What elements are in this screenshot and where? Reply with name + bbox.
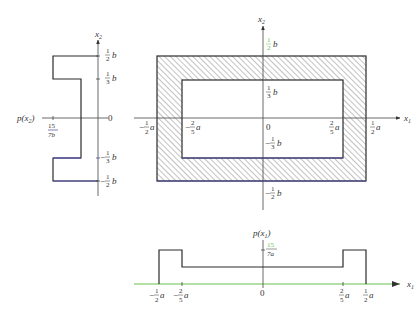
svg-text:2: 2 [271,193,275,201]
svg-text:2: 2 [155,296,159,304]
svg-text:3: 3 [271,143,275,151]
svg-text:a: a [150,122,155,132]
left-tick-neg-third-b: − 1 3 b [100,149,117,165]
svg-text:b: b [112,50,117,60]
svg-text:1: 1 [106,70,110,78]
main-x1-label: x1 [403,113,411,124]
left-density-label: p(x2) [16,113,35,124]
main-region-plot: x1 x2 0 − 1 2 a − 2 5 a 2 5 a 1 2 [134,14,411,210]
svg-text:a: a [184,290,189,300]
svg-text:2: 2 [371,128,375,136]
left-tick-third-b: 1 3 b [105,70,117,86]
bottom-density-label: p(x1) [252,228,271,239]
main-ytick-half-b: 1 2 b [266,36,278,52]
svg-text:−: − [100,176,105,186]
svg-text:a: a [376,122,381,132]
svg-text:1: 1 [106,149,110,157]
svg-text:b: b [277,138,282,148]
left-zero-label: 0 [108,113,113,123]
left-tick-neg-half-b: − 1 2 b [100,173,117,189]
svg-text:−: − [265,188,270,198]
left-density-value-den: 7b [48,131,56,139]
svg-text:5: 5 [179,296,183,304]
svg-text:−: − [149,290,154,300]
svg-text:5: 5 [340,296,344,304]
bottom-xtick-half-a: 1 2 a [363,287,374,304]
svg-text:b: b [112,152,117,162]
main-ytick-neg-half-b: − 1 2 b [265,185,282,201]
bottom-density-value-num: 15 [267,241,275,249]
svg-text:1: 1 [106,173,110,181]
diagram-canvas: x2 p(x2) 15 7b 0 1 2 b 1 3 b − 1 3 b [0,0,420,320]
svg-text:1: 1 [106,47,110,55]
svg-text:b: b [277,188,282,198]
svg-text:2: 2 [179,287,183,295]
svg-text:b: b [112,176,117,186]
svg-text:1: 1 [371,119,375,127]
bottom-xtick-twofifths-a: 2 5 a [339,287,350,304]
svg-text:1: 1 [267,36,271,44]
svg-text:1: 1 [271,185,275,193]
main-x2-label: x2 [257,14,265,25]
main-ytick-neg-third-b: − 1 3 b [265,135,282,151]
svg-text:−: − [265,138,270,148]
svg-text:5: 5 [330,128,334,136]
svg-text:3: 3 [106,157,110,165]
bottom-density-curve [159,250,366,284]
svg-text:2: 2 [267,44,271,52]
svg-text:2: 2 [106,181,110,189]
svg-text:1: 1 [364,287,368,295]
svg-text:2: 2 [364,296,368,304]
left-density-value-num: 15 [48,122,56,130]
left-marginal-plot: x2 p(x2) 15 7b 0 1 2 b 1 3 b − 1 3 b [16,29,117,196]
main-xtick-twofifths-a: 2 5 a [329,119,340,136]
hatched-support-region [157,56,366,181]
svg-text:b: b [273,39,278,49]
svg-text:2: 2 [340,287,344,295]
bottom-xtick-neg-twofifths-a: − 2 5 a [173,287,189,304]
left-x2-label: x2 [94,29,102,40]
svg-text:5: 5 [191,128,195,136]
svg-text:a: a [335,122,340,132]
main-ytick-third-b: 1 3 b [266,84,278,100]
svg-text:a: a [369,290,374,300]
svg-text:−: − [185,122,190,132]
svg-text:2: 2 [191,119,195,127]
svg-text:b: b [112,73,117,83]
svg-text:−: − [173,290,178,300]
main-xtick-half-a: 1 2 a [370,119,381,136]
left-density-curve [53,56,98,181]
svg-text:1: 1 [155,287,159,295]
svg-text:3: 3 [267,92,271,100]
left-tick-half-b: 1 2 b [105,47,117,63]
svg-text:1: 1 [145,119,149,127]
bottom-marginal-plot: x1 p(x1) 15 7a 0 − 1 2 a − 2 5 a 2 5 a 1 [134,228,414,304]
main-zero-label: 0 [266,122,271,132]
bottom-zero-label: 0 [260,288,265,298]
main-xtick-neg-half-a: − 1 2 a [139,119,155,136]
svg-text:a: a [345,290,350,300]
svg-text:1: 1 [267,84,271,92]
svg-text:−: − [100,152,105,162]
bottom-x1-label: x1 [406,279,414,290]
svg-text:a: a [160,290,165,300]
svg-text:2: 2 [145,128,149,136]
bottom-density-value-den: 7a [267,250,275,258]
inner-rectangle [182,80,343,158]
svg-text:2: 2 [330,119,334,127]
svg-text:−: − [139,122,144,132]
svg-text:b: b [273,87,278,97]
svg-text:3: 3 [106,78,110,86]
svg-text:a: a [196,122,201,132]
svg-text:2: 2 [106,55,110,63]
svg-text:1: 1 [271,135,275,143]
main-xtick-neg-twofifths-a: − 2 5 a [185,119,201,136]
bottom-xtick-neg-half-a: − 1 2 a [149,287,165,304]
